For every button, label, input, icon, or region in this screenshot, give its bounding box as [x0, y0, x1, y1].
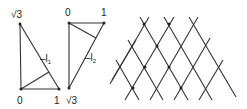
lattice-point	[168, 23, 171, 26]
triangle-2: 0 1 √3 –l2	[65, 7, 107, 106]
triangle-2-altitude	[69, 23, 96, 38]
lattice-point	[156, 45, 159, 48]
label-sqrt3-top: √3	[11, 9, 22, 20]
vertex-dot	[68, 22, 71, 25]
vertex-dot	[19, 23, 22, 26]
label-zero-top: 0	[65, 7, 71, 18]
lattice-point	[180, 87, 183, 90]
vertex-dot	[103, 22, 106, 25]
lattice-point	[144, 66, 147, 69]
vertex-dot	[68, 87, 71, 90]
label-zero-bottom: 0	[17, 95, 23, 106]
lattice-point	[132, 87, 135, 90]
vertex-dot	[58, 88, 61, 91]
line-label-l2: –l2	[85, 52, 97, 64]
lattice-line	[116, 60, 139, 100]
figure-canvas: √3 0 1 –l1 0 1 √3 –l2	[0, 0, 247, 109]
lattice-line	[164, 17, 212, 100]
lattice-point	[168, 66, 171, 69]
triangle-1-altitude	[21, 72, 49, 89]
triangle-1: √3 0 1 –l1	[11, 9, 61, 106]
lattice-line	[189, 17, 236, 97]
label-one-bottom: 1	[54, 95, 60, 106]
line-label-l1: –l1	[40, 53, 52, 65]
lattice	[110, 17, 236, 100]
label-one-top: 1	[101, 7, 107, 18]
lattice-point	[143, 23, 146, 26]
lattice-line	[199, 60, 223, 100]
lattice-line	[150, 17, 198, 100]
vertex-dot	[20, 88, 23, 91]
label-sqrt3-bottom: √3	[66, 95, 77, 106]
